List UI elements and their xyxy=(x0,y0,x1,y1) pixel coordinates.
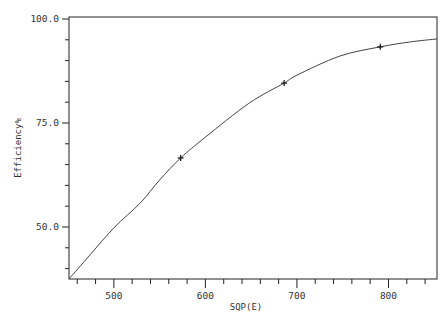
plot-frame xyxy=(69,17,437,279)
y-tick-label: 50.0 xyxy=(36,221,59,232)
y-axis-label: Efficiency% xyxy=(13,118,23,178)
x-tick-label: 600 xyxy=(197,290,214,301)
efficiency-chart: 50.075.0100.0 500600700800 SQP(E) Effici… xyxy=(0,0,448,336)
x-tick-label: 700 xyxy=(288,290,305,301)
x-axis-ticks xyxy=(77,279,425,288)
y-axis-ticks xyxy=(62,19,69,269)
y-axis-tick-labels: 50.075.0100.0 xyxy=(30,13,59,232)
y-tick-label: 75.0 xyxy=(36,117,59,128)
x-axis-tick-labels: 500600700800 xyxy=(105,290,397,301)
x-tick-label: 500 xyxy=(105,290,122,301)
y-tick-label: 100.0 xyxy=(30,13,59,24)
x-axis-label: SQP(E) xyxy=(230,302,263,312)
x-tick-label: 800 xyxy=(380,290,397,301)
